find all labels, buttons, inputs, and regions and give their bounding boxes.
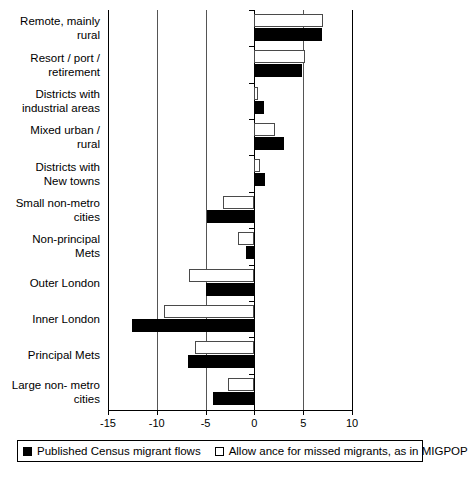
bar-dark-8: [132, 319, 254, 332]
bar-dark-9: [188, 355, 254, 368]
legend-swatch-light-icon: [215, 447, 224, 456]
category-label-4: Districts withNew towns: [0, 160, 100, 188]
category-label-9: Principal Mets: [0, 348, 100, 362]
x-axis-line: [108, 410, 353, 411]
bar-light-5: [223, 196, 254, 209]
legend-swatch-dark-icon: [23, 447, 32, 456]
x-tick-10: [352, 410, 353, 415]
x-tick-label--10: -10: [137, 417, 177, 430]
category-label-2: Districts withindustrial areas: [0, 87, 100, 115]
category-tick: [249, 301, 254, 302]
axis-frame-left: [108, 10, 109, 410]
legend-item-published-census: Published Census migrant flows: [23, 445, 201, 457]
plot-area: -15-10-50510: [108, 10, 353, 410]
category-tick: [249, 192, 254, 193]
category-label-line: Small non-metro: [0, 196, 100, 210]
category-label-line: industrial areas: [0, 101, 100, 115]
bar-light-10: [228, 378, 254, 391]
category-tick: [249, 10, 254, 11]
category-label-0: Remote, mainlyrural: [0, 14, 100, 42]
category-label-line: New towns: [0, 174, 100, 188]
category-label-line: retirement: [0, 65, 100, 79]
x-tick--15: [108, 410, 109, 415]
category-label-8: Inner London: [0, 312, 100, 326]
bar-dark-6: [246, 246, 255, 259]
bar-dark-0: [254, 28, 321, 41]
bar-light-1: [254, 50, 305, 63]
x-tick--5: [206, 410, 207, 415]
bar-light-7: [189, 269, 254, 282]
bar-dark-5: [207, 210, 255, 223]
legend-label-migpop-allowance: Allow ance for missed migrants, as in MI…: [229, 445, 468, 457]
category-label-10: Large non- metrocities: [0, 378, 100, 406]
category-label-line: Mets: [0, 246, 100, 260]
category-label-line: rural: [0, 28, 100, 42]
category-label-line: Districts with: [0, 160, 100, 174]
category-label-line: rural: [0, 137, 100, 151]
category-tick: [249, 155, 254, 156]
axis-frame-right: [352, 10, 353, 410]
x-tick-label-5: 5: [283, 417, 323, 430]
category-tick: [249, 337, 254, 338]
category-label-3: Mixed urban /rural: [0, 123, 100, 151]
bar-dark-4: [254, 173, 265, 186]
x-tick-label-10: 10: [332, 417, 372, 430]
category-tick: [249, 83, 254, 84]
bar-light-8: [164, 305, 255, 318]
category-label-line: Districts with: [0, 87, 100, 101]
category-label-line: Mixed urban /: [0, 123, 100, 137]
category-label-line: Non-principal: [0, 232, 100, 246]
x-tick-5: [303, 410, 304, 415]
gridline-5: [303, 10, 304, 410]
category-label-1: Resort / port /retirement: [0, 51, 100, 79]
x-tick-label--15: -15: [88, 417, 128, 430]
bar-dark-7: [206, 283, 255, 296]
category-axis-labels: Remote, mainlyruralResort / port /retire…: [0, 10, 104, 410]
legend-item-migpop-allowance: Allow ance for missed migrants, as in MI…: [215, 445, 468, 457]
category-label-line: Resort / port /: [0, 51, 100, 65]
bar-light-3: [254, 123, 274, 136]
bar-light-2: [254, 87, 258, 100]
category-label-line: Large non- metro: [0, 378, 100, 392]
category-tick: [249, 265, 254, 266]
legend-label-published-census: Published Census migrant flows: [37, 445, 201, 457]
category-label-line: Inner London: [0, 312, 100, 326]
bar-light-9: [195, 341, 255, 354]
category-tick: [249, 374, 254, 375]
category-label-7: Outer London: [0, 276, 100, 290]
bar-dark-1: [254, 64, 302, 77]
gridline--10: [157, 10, 158, 410]
x-tick-label-0: 0: [234, 417, 274, 430]
category-label-line: cities: [0, 210, 100, 224]
category-label-line: Remote, mainly: [0, 14, 100, 28]
category-label-line: Principal Mets: [0, 348, 100, 362]
x-tick--10: [157, 410, 158, 415]
bar-dark-3: [254, 137, 283, 150]
bar-light-4: [254, 159, 260, 172]
category-tick: [249, 228, 254, 229]
category-label-6: Non-principalMets: [0, 232, 100, 260]
category-label-line: Outer London: [0, 276, 100, 290]
bar-light-6: [238, 232, 255, 245]
category-tick: [249, 119, 254, 120]
x-tick-label--5: -5: [186, 417, 226, 430]
bar-dark-2: [254, 101, 264, 114]
category-label-line: cities: [0, 392, 100, 406]
bar-dark-10: [213, 392, 254, 405]
category-label-5: Small non-metrocities: [0, 196, 100, 224]
x-tick-0: [254, 410, 255, 415]
chart-legend: Published Census migrant flows Allow anc…: [17, 440, 423, 462]
bar-light-0: [254, 14, 322, 27]
category-tick: [249, 46, 254, 47]
